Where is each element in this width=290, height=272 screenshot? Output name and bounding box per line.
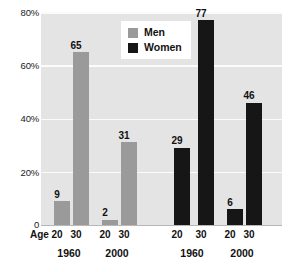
x-tick-1960-age30-men: 30	[64, 229, 88, 240]
bar-men-1960-age20	[54, 201, 70, 225]
x-tick-2000-age30-women: 30	[237, 229, 261, 240]
x-tick-1960-age20-women: 20	[165, 229, 189, 240]
group-label-men-2000: 2000	[102, 247, 132, 259]
legend: Men Women	[121, 21, 191, 59]
bar-women-2000-age30	[246, 103, 262, 225]
y-tick-80: 80%	[21, 8, 39, 18]
bar-men-1960-age30	[73, 52, 89, 225]
group-label-women-2000: 2000	[227, 247, 257, 259]
y-tick-20: 20%	[21, 168, 39, 178]
bar-value-women-2000-age20: 6	[221, 197, 239, 208]
legend-swatch-men-icon	[128, 28, 138, 38]
legend-item-women: Women	[128, 41, 182, 54]
bar-women-1960-age20	[174, 148, 190, 225]
bar-value-men-1960-age30: 65	[67, 40, 85, 51]
legend-label-men: Men	[144, 27, 165, 38]
bar-chart: 80% 60% 40% 20% 0 9 65 2 31 29 77 6 46 M…	[0, 0, 290, 272]
x-axis-baseline	[41, 225, 282, 226]
gridline-80	[41, 12, 282, 14]
legend-label-women: Women	[144, 42, 182, 53]
legend-swatch-women-icon	[128, 43, 138, 53]
bar-value-men-2000-age20: 2	[96, 207, 114, 218]
x-tick-1960-age30-women: 30	[189, 229, 213, 240]
bar-women-1960-age30	[198, 20, 214, 225]
bar-value-women-1960-age30: 77	[192, 8, 210, 19]
bar-value-men-2000-age30: 31	[115, 130, 133, 141]
legend-item-men: Men	[128, 26, 182, 39]
bar-value-women-1960-age20: 29	[168, 135, 186, 146]
bar-value-women-2000-age30: 46	[240, 90, 258, 101]
group-label-women-1960: 1960	[177, 247, 207, 259]
bar-men-2000-age30	[121, 142, 137, 225]
group-label-men-1960: 1960	[54, 247, 84, 259]
y-tick-60: 60%	[21, 61, 39, 71]
bar-value-men-1960-age20: 9	[48, 189, 66, 200]
x-tick-2000-age30-men: 30	[112, 229, 136, 240]
bar-women-2000-age20	[227, 209, 243, 225]
y-tick-40: 40%	[21, 114, 39, 124]
